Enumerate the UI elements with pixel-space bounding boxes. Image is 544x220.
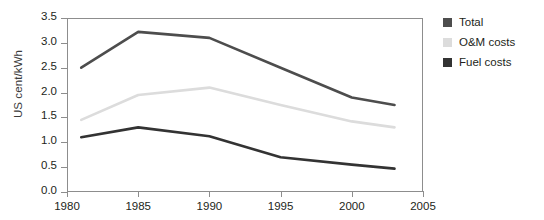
plot-area: 3.53.02.52.01.51.00.50.0 198019851990199…: [67, 18, 423, 192]
legend-label-fuel-costs: Fuel costs: [459, 56, 511, 68]
x-tick-mark: [423, 191, 424, 197]
y-tick-label: 1.0: [23, 134, 57, 146]
y-tick-label: 0.5: [23, 159, 57, 171]
legend-swatch-om-costs: [443, 38, 452, 47]
y-tick-label: 2.5: [23, 60, 57, 72]
y-tick-label: 3.0: [23, 35, 57, 47]
x-tick-label: 1985: [115, 200, 161, 212]
chart-legend: Total O&M costs Fuel costs: [443, 13, 515, 73]
y-tick-label: 1.5: [23, 109, 57, 121]
y-tick-label: 3.5: [23, 10, 57, 22]
legend-item-total[interactable]: Total: [443, 13, 515, 31]
legend-swatch-fuel-costs: [443, 58, 452, 67]
series-lines: [67, 18, 423, 192]
y-tick-label: 2.0: [23, 85, 57, 97]
legend-swatch-total: [443, 18, 452, 27]
x-tick-label: 1995: [258, 200, 304, 212]
series-line-o-m-costs: [81, 88, 394, 128]
x-tick-label: 1990: [186, 200, 232, 212]
chart-container: US cent/kWh 3.53.02.52.01.51.00.50.0 198…: [0, 0, 544, 220]
legend-item-om-costs[interactable]: O&M costs: [443, 33, 515, 51]
x-tick-label: 1980: [44, 200, 90, 212]
x-tick-label: 2005: [400, 200, 446, 212]
legend-item-fuel-costs[interactable]: Fuel costs: [443, 53, 515, 71]
legend-label-om-costs: O&M costs: [459, 36, 515, 48]
y-tick-label: 0.0: [23, 184, 57, 196]
x-tick-label: 2000: [329, 200, 375, 212]
legend-label-total: Total: [459, 16, 483, 28]
series-line-fuel-costs: [81, 127, 394, 168]
